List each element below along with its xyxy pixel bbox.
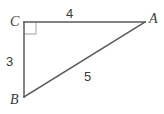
vertex-label-a: A	[149, 12, 158, 26]
side-length-label-cb: 3	[6, 55, 13, 68]
triangle-figure: C A B 4 3 5	[0, 0, 164, 114]
triangle-side-ba	[24, 22, 145, 97]
vertex-label-b: B	[10, 93, 19, 107]
triangle-drawing	[0, 0, 164, 114]
side-length-label-ca: 4	[66, 7, 73, 20]
side-length-label-ba: 5	[84, 70, 91, 83]
vertex-label-c: C	[10, 15, 19, 29]
right-angle-marker-icon	[24, 22, 36, 34]
